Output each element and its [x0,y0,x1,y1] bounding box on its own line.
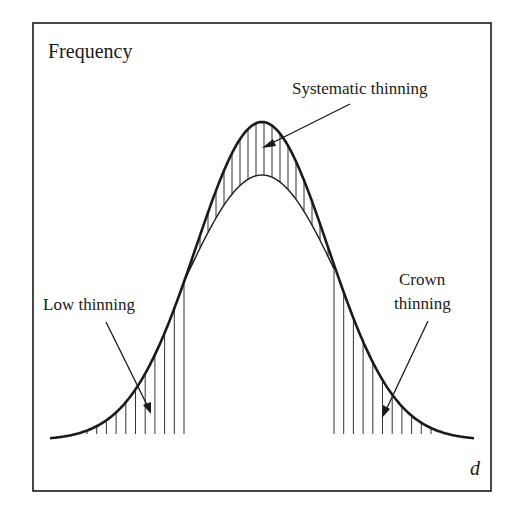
systematic-arrow [262,104,350,148]
crown-thinning-hatch [334,265,431,434]
crown-thinning-label-line2: thinning [394,294,451,313]
crown-thinning-arrow [382,321,428,418]
crown-thinning-label-line1: Crown [399,270,446,289]
systematic-thinning-hatch [192,122,328,265]
reduced-distribution-curve [184,175,334,282]
systematic-thinning-label: Systematic thinning [292,79,428,98]
low-thinning-label: Low thinning [43,295,136,314]
x-axis-label: d [470,457,481,479]
thinning-diagram: Frequency Systematic thinning Low thinni… [0,0,512,514]
y-axis-label: Frequency [48,40,132,63]
